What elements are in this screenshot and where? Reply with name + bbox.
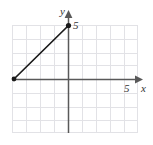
y-axis-arrowhead [65, 10, 73, 18]
y-axis-tick-label-5: 5 [73, 20, 79, 31]
endpoint-right [66, 23, 71, 28]
x-axis-label: x [141, 83, 146, 94]
endpoint-left [12, 77, 17, 82]
y-axis-label: y [60, 6, 65, 17]
x-axis-tick-label-5: 5 [124, 83, 130, 94]
line-segment [14, 26, 69, 80]
graph-figure: y x 5 5 [0, 0, 153, 145]
line-segment-series [12, 23, 72, 82]
